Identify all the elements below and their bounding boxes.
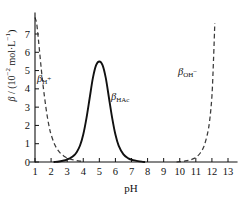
y-tick-label-5: 5 bbox=[25, 65, 30, 76]
x-tick-label-7: 7 bbox=[129, 166, 134, 177]
y-tick-label-7: 7 bbox=[25, 29, 30, 40]
x-tick-label-10: 10 bbox=[175, 166, 186, 177]
curve-label-beta-hac: βHAc bbox=[111, 91, 129, 102]
curve-label-beta-oh-minus: βOH− bbox=[178, 66, 197, 77]
x-tick-label-11: 11 bbox=[191, 166, 201, 177]
x-axis-title: pH bbox=[124, 182, 138, 194]
beta-oh-superscript: − bbox=[193, 68, 197, 76]
y-tick-label-2: 2 bbox=[25, 120, 30, 131]
x-tick-labels: 12345678910111213 bbox=[32, 166, 233, 177]
x-tick-label-12: 12 bbox=[207, 166, 218, 177]
curve--h- bbox=[35, 18, 83, 162]
x-tick-label-1: 1 bbox=[32, 166, 37, 177]
buffer-capacity-chart: 12345678910111213 01234567 pH β / (10−2 … bbox=[0, 0, 244, 197]
y-axis-title-exponent: −2 bbox=[4, 68, 12, 75]
y-tick-label-1: 1 bbox=[25, 138, 30, 149]
curve--hac bbox=[54, 61, 144, 162]
y-axis-title-exponent-2: −1 bbox=[4, 33, 12, 40]
curve--oh- bbox=[177, 23, 215, 162]
beta-hac-subscript: HAc bbox=[116, 96, 129, 104]
beta-oh-subscript: OH bbox=[183, 71, 193, 79]
x-tick-label-5: 5 bbox=[97, 166, 102, 177]
y-axis-title-beta: β bbox=[6, 97, 17, 102]
curve-label-beta-h-plus: βH+ bbox=[37, 73, 51, 84]
x-tick-label-2: 2 bbox=[48, 166, 53, 177]
x-tick-label-9: 9 bbox=[161, 166, 166, 177]
y-tick-label-6: 6 bbox=[25, 47, 30, 58]
x-tick-label-8: 8 bbox=[145, 166, 150, 177]
y-axis-title-unit: mol·L bbox=[6, 41, 17, 69]
y-axis-title-close: ) bbox=[6, 30, 17, 33]
y-axis-title: β / (10−2 mol·L−1) bbox=[5, 1, 16, 131]
y-tick-label-3: 3 bbox=[25, 102, 30, 113]
x-tick-label-6: 6 bbox=[113, 166, 118, 177]
y-axis-ticks bbox=[35, 34, 39, 162]
y-tick-labels: 01234567 bbox=[25, 29, 31, 168]
beta-h-superscript: + bbox=[47, 75, 51, 83]
y-tick-label-0: 0 bbox=[25, 157, 30, 168]
x-tick-label-13: 13 bbox=[223, 166, 234, 177]
x-tick-label-4: 4 bbox=[81, 166, 87, 177]
y-tick-label-4: 4 bbox=[25, 83, 31, 94]
chart-curves bbox=[35, 18, 215, 162]
y-axis-title-rest: / (10 bbox=[6, 75, 17, 96]
x-tick-label-3: 3 bbox=[65, 166, 70, 177]
